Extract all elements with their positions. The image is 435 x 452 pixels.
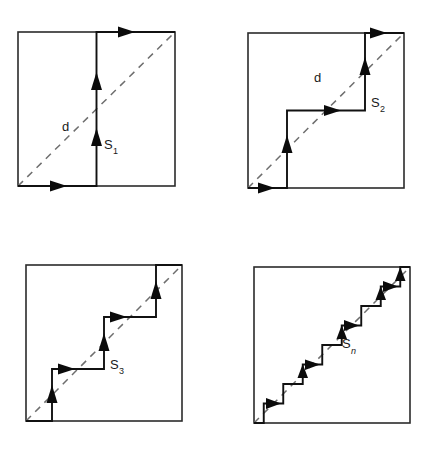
panel-1-arrow-up-lower-icon	[91, 128, 102, 146]
panel-2-stair-label: S	[371, 95, 380, 110]
panel-2-arrow-top-icon	[370, 28, 387, 39]
panel-3-arrow-up-1-icon	[47, 385, 58, 403]
panel-3-arrow-right-1-icon	[58, 364, 75, 375]
panel-2-arrow-up-2-icon	[360, 57, 371, 75]
panel-2-diagonal-label: d	[314, 70, 321, 85]
panel-4-stair-label: S	[342, 336, 351, 351]
staircase-figure: d S 1 d S 2 S 3	[0, 0, 435, 452]
panel-1-diagonal-label: d	[62, 119, 69, 134]
panel-2-arrow-up-1-icon	[282, 135, 293, 153]
panel-4-arrow-right-1-icon	[266, 398, 281, 409]
panel-1-stair-label-subscript: 1	[113, 146, 118, 156]
panel-4-stair-label-subscript: n	[351, 346, 356, 356]
panel-3-arrow-right-2-icon	[110, 312, 127, 323]
panel-2-arrow-bottom-icon	[258, 183, 275, 194]
panel-4-arrow-right-2-icon	[305, 360, 320, 371]
panel-4-arrow-right-3-icon	[344, 320, 359, 331]
panel-3-arrow-up-3-icon	[151, 281, 162, 299]
panel-2-stair-label-subscript: 2	[380, 104, 385, 114]
panel-1-stair-label: S	[104, 137, 113, 152]
panel-1: d S 1	[8, 18, 193, 203]
panel-4: S n	[244, 253, 429, 438]
panel-1-arrow-top-icon	[118, 27, 135, 38]
panel-1-arrow-up-upper-icon	[91, 72, 102, 90]
panel-3: S 3	[16, 251, 201, 436]
panel-3-stair-label-subscript: 3	[119, 366, 124, 376]
panel-3-arrow-up-2-icon	[99, 333, 110, 351]
panel-2: d S 2	[238, 19, 423, 204]
panel-4-arrow-right-4-icon	[383, 281, 398, 292]
panel-1-arrow-bottom-icon	[50, 181, 67, 192]
panel-3-stair-label: S	[110, 357, 119, 372]
panel-2-arrow-mid-icon	[324, 105, 341, 116]
